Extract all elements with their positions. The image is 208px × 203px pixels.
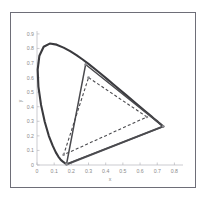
x-tick-label: 0.1 [51, 168, 58, 174]
y-tick-label: 0.1 [27, 147, 34, 153]
gamut-vertex-dot [162, 125, 165, 128]
x-tick-label: 0.6 [136, 168, 143, 174]
y-tick-label: 0.6 [27, 75, 34, 81]
y-tick-label: 0.4 [27, 104, 34, 110]
gamut-vertex-dot [87, 76, 90, 79]
x-axis-title: x [109, 176, 112, 182]
y-tick-label: 0.2 [27, 133, 34, 139]
gamut-vertex-dot [146, 116, 149, 119]
axes-group [37, 31, 183, 165]
gamut-triangles-group [62, 63, 164, 165]
x-tick-label: 0.4 [102, 168, 109, 174]
x-tick-label: 0.2 [68, 168, 75, 174]
y-tick-label: 0.7 [27, 60, 34, 66]
x-tick-label: 0.7 [154, 168, 161, 174]
x-tick-label: 0 [36, 168, 39, 174]
spectral-locus-curve [38, 44, 164, 165]
wide-gamut-triangle [67, 65, 164, 165]
x-tick-label: 0.8 [171, 168, 178, 174]
y-tick-label: 0 [31, 162, 34, 168]
y-tick-label: 0.5 [27, 89, 34, 95]
gamut-vertex-dot [62, 154, 65, 157]
y-axis-ticks: 00.10.20.30.40.50.60.70.80.9 [27, 31, 40, 168]
chromaticity-plot: 00.10.20.30.40.50.60.70.8 00.10.20.30.40… [11, 13, 195, 187]
x-tick-label: 0.3 [85, 168, 92, 174]
figure-frame: 00.10.20.30.40.50.60.70.8 00.10.20.30.40… [10, 12, 196, 188]
y-tick-label: 0.8 [27, 45, 34, 51]
y-axis-title: y [17, 99, 23, 102]
y-tick-label: 0.3 [27, 118, 34, 124]
x-tick-label: 0.5 [119, 168, 126, 174]
gamut-vertex-dot [65, 163, 68, 166]
x-axis-ticks: 00.10.20.30.40.50.60.70.8 [36, 163, 179, 175]
y-tick-label: 0.9 [27, 31, 34, 37]
gamut-vertex-dot [84, 63, 87, 66]
spectral-locus-group [38, 44, 164, 165]
